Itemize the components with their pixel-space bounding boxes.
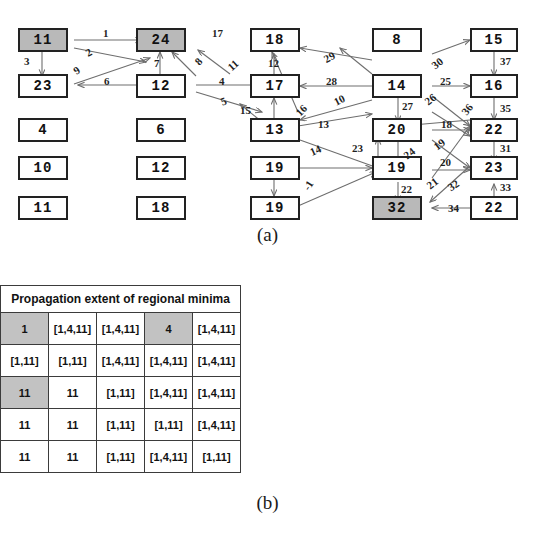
edge-weight-label: 15 [240, 105, 251, 116]
graph-node[interactable]: 14 [372, 74, 422, 98]
figure-panel-a: 11 23 4 10 11 24 12 6 12 18 18 17 13 19 … [0, 0, 535, 250]
panel-a-caption: (a) [0, 224, 535, 246]
edge-weight-label: 25 [440, 76, 451, 87]
graph-node[interactable]: 22 [470, 196, 518, 220]
table-row: 1111[1,11][1,11][1,4,11] [1, 409, 241, 441]
table-cell: [1,11] [97, 441, 145, 473]
edge-weight-label: 17 [212, 28, 223, 39]
edge-weight-label: 23 [352, 143, 363, 154]
graph-node[interactable]: 15 [470, 28, 518, 52]
edge-weight-label: 6 [104, 76, 110, 87]
graph-node[interactable]: 12 [136, 156, 186, 180]
node-label: 11 [34, 200, 53, 216]
graph-node[interactable]: 11 [18, 28, 68, 52]
edge-weight-label: 28 [326, 76, 337, 87]
minima-table-title: Propagation extent of regional minima [1, 286, 241, 313]
graph-node[interactable]: 18 [136, 196, 186, 220]
node-label: 23 [485, 160, 504, 176]
edge-weight-label: 7 [154, 58, 160, 69]
table-cell: 1 [1, 313, 49, 345]
graph-node[interactable]: 23 [18, 74, 68, 98]
edge-weight-label: 4 [219, 76, 225, 87]
node-label: 18 [152, 200, 171, 216]
graph-node[interactable]: 19 [372, 156, 422, 180]
table-row: 1111[1,11][1,4,11][1,11] [1, 441, 241, 473]
graph-node[interactable]: 6 [136, 118, 186, 142]
table-cell: [1,11] [1, 345, 49, 377]
edge-weight-label: 33 [500, 182, 511, 193]
graph-node[interactable]: 12 [136, 74, 186, 98]
node-label: 32 [388, 200, 407, 216]
table-cell: [1,4,11] [193, 409, 241, 441]
panel-b-caption: (b) [0, 492, 535, 514]
table-row: [1,11][1,11][1,4,11][1,4,11][1,4,11] [1, 345, 241, 377]
graph-node[interactable]: 16 [470, 74, 518, 98]
node-label: 20 [388, 122, 407, 138]
node-label: 11 [34, 32, 53, 48]
node-label: 19 [266, 160, 285, 176]
node-label: 12 [152, 160, 171, 176]
minima-table-wrapper: Propagation extent of regional minima 1[… [0, 285, 241, 473]
node-label: 22 [485, 200, 504, 216]
graph-node[interactable]: 24 [136, 28, 186, 52]
node-label: 15 [485, 32, 504, 48]
table-cell: 11 [49, 441, 97, 473]
node-label: 22 [485, 122, 504, 138]
node-label: 19 [388, 160, 407, 176]
graph-node[interactable]: 17 [250, 74, 300, 98]
table-cell: [1,4,11] [97, 345, 145, 377]
edge-weight-label: 37 [500, 56, 511, 67]
graph-node[interactable]: 23 [470, 156, 518, 180]
node-label: 17 [266, 78, 285, 94]
table-cell: [1,4,11] [193, 377, 241, 409]
node-label: 24 [152, 32, 171, 48]
node-label: 6 [156, 122, 165, 138]
node-label: 12 [152, 78, 171, 94]
table-cell: [1,11] [97, 409, 145, 441]
table-cell: 11 [1, 377, 49, 409]
node-label: 14 [388, 78, 407, 94]
node-label: 4 [38, 122, 47, 138]
table-cell: 4 [145, 313, 193, 345]
edge-weight-label: 35 [500, 103, 511, 114]
graph-node[interactable]: 18 [250, 28, 300, 52]
graph-node[interactable]: 4 [18, 118, 68, 142]
table-cell: 11 [49, 377, 97, 409]
edge-weight-label: 12 [268, 58, 279, 69]
edge-weight-label: 22 [401, 184, 412, 195]
graph-node[interactable]: 10 [18, 156, 68, 180]
node-label: 16 [485, 78, 504, 94]
graph-node[interactable]: 13 [250, 118, 300, 142]
edge-weight-label: 1 [103, 28, 109, 39]
table-cell: 11 [1, 409, 49, 441]
node-label: 8 [392, 32, 401, 48]
edge-weight-label: 31 [500, 143, 511, 154]
node-label: 19 [266, 200, 285, 216]
table-cell: [1,4,11] [193, 345, 241, 377]
node-label: 18 [266, 32, 285, 48]
figure-panel-b: Propagation extent of regional maxima [2… [0, 285, 535, 490]
table-cell: [1,11] [97, 377, 145, 409]
table-cell: [1,11] [49, 345, 97, 377]
minima-table: Propagation extent of regional minima 1[… [0, 285, 241, 473]
table-row: 1111[1,11][1,4,11][1,4,11] [1, 377, 241, 409]
table-cell: [1,11] [193, 441, 241, 473]
table-cell: [1,4,11] [49, 313, 97, 345]
table-cell: [1,11] [145, 409, 193, 441]
table-cell: [1,4,11] [193, 313, 241, 345]
graph-node[interactable]: 32 [372, 196, 422, 220]
graph-node[interactable]: 19 [250, 156, 300, 180]
node-label: 23 [34, 78, 53, 94]
graph-node[interactable]: 20 [372, 118, 422, 142]
edge-weight-label: 18 [441, 119, 452, 130]
edge-weight-label: 13 [318, 119, 329, 130]
graph-node[interactable]: 22 [470, 118, 518, 142]
edge-weight-label: 3 [24, 56, 30, 67]
table-cell: [1,4,11] [97, 313, 145, 345]
graph-node[interactable]: 11 [18, 196, 68, 220]
graph-node[interactable]: 8 [372, 28, 422, 52]
table-cell: 11 [49, 409, 97, 441]
table-cell: [1,4,11] [145, 441, 193, 473]
graph-node[interactable]: 19 [250, 196, 300, 220]
table-cell: [1,4,11] [145, 345, 193, 377]
